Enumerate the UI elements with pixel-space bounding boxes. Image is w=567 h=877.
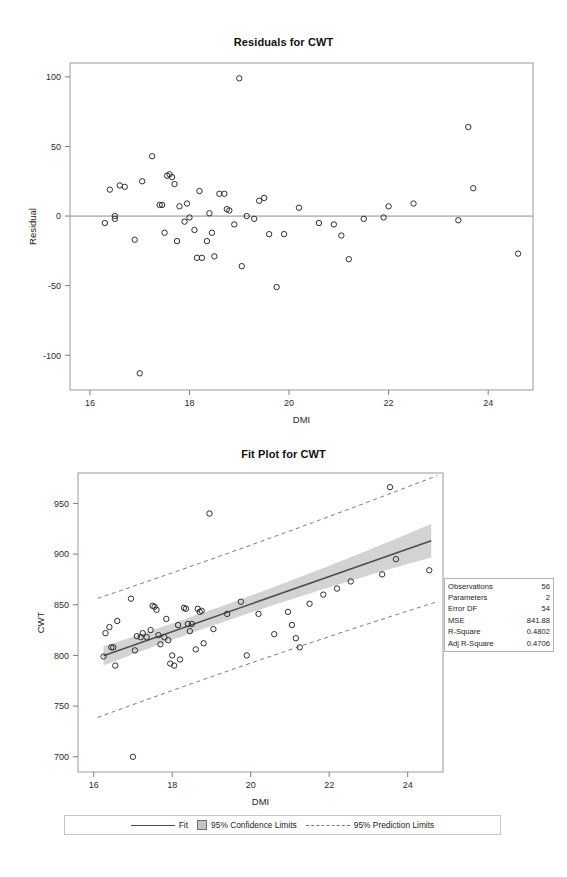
plot-frame bbox=[78, 473, 443, 772]
data-point-marker bbox=[204, 238, 209, 243]
data-point-marker bbox=[113, 663, 118, 668]
data-point-marker bbox=[207, 511, 212, 516]
y-tick-label: 950 bbox=[54, 499, 69, 509]
y-tick-label: 850 bbox=[54, 600, 69, 610]
statistic-label: Adj R-Square bbox=[445, 638, 514, 649]
data-point-marker bbox=[162, 230, 167, 235]
data-point-marker bbox=[386, 204, 391, 209]
y-tick-label: 800 bbox=[54, 651, 69, 661]
statistic-row: Adj R-Square0.4706 bbox=[445, 638, 553, 649]
data-point-marker bbox=[239, 263, 244, 268]
data-point-marker bbox=[177, 657, 182, 662]
data-point-marker bbox=[128, 596, 133, 601]
y-tick-label: 0 bbox=[56, 211, 61, 221]
data-point-marker bbox=[331, 222, 336, 227]
data-point-marker bbox=[209, 230, 214, 235]
data-point-marker bbox=[339, 233, 344, 238]
data-point-marker bbox=[387, 484, 392, 489]
prediction-limits-line-lower bbox=[98, 602, 438, 718]
residual-plot-canvas: 1618202224-100-50050100DMIResidual bbox=[0, 0, 567, 440]
data-point-marker bbox=[379, 572, 384, 577]
data-point-marker bbox=[149, 154, 154, 159]
x-tick-label: 20 bbox=[246, 780, 256, 790]
data-point-group bbox=[102, 76, 521, 376]
residual-plot-panel: Residuals for CWT 1618202224-100-5005010… bbox=[0, 0, 567, 440]
statistic-label: Observations bbox=[445, 581, 514, 592]
statistic-label: MSE bbox=[445, 615, 514, 626]
x-tick-label: 18 bbox=[167, 780, 177, 790]
data-point-marker bbox=[285, 609, 290, 614]
data-point-marker bbox=[107, 624, 112, 629]
data-point-marker bbox=[232, 222, 237, 227]
data-point-marker bbox=[427, 568, 432, 573]
x-tick-label: 16 bbox=[89, 780, 99, 790]
fit-statistics-table: Observations56Parameters2Error DF54MSE84… bbox=[445, 581, 553, 649]
prediction-limits-line-upper bbox=[98, 476, 438, 599]
data-point-marker bbox=[252, 216, 257, 221]
fit-plot-panel: Fit Plot for CWT 16182022247007508008509… bbox=[0, 440, 567, 877]
data-point-marker bbox=[293, 636, 298, 641]
legend-swatch-line-icon bbox=[131, 825, 175, 826]
legend-entry: 95% Confidence Limits bbox=[197, 820, 297, 830]
data-point-marker bbox=[137, 371, 142, 376]
legend-swatch-box-icon bbox=[197, 820, 207, 830]
data-point-marker bbox=[361, 216, 366, 221]
statistic-value: 56 bbox=[514, 581, 553, 592]
data-point-marker bbox=[256, 198, 261, 203]
legend-label: Fit bbox=[179, 820, 188, 830]
y-tick-label: -100 bbox=[43, 351, 61, 361]
data-point-marker bbox=[256, 611, 261, 616]
data-point-marker bbox=[346, 257, 351, 262]
y-tick-label: 50 bbox=[51, 142, 61, 152]
data-point-marker bbox=[107, 187, 112, 192]
fit-plot-title: Fit Plot for CWT bbox=[0, 448, 567, 460]
data-point-marker bbox=[515, 251, 520, 256]
statistic-value: 2 bbox=[514, 592, 553, 603]
statistic-row: Parameters2 bbox=[445, 592, 553, 603]
data-point-marker bbox=[334, 586, 339, 591]
data-point-marker bbox=[244, 653, 249, 658]
data-point-marker bbox=[177, 204, 182, 209]
data-point-marker bbox=[193, 647, 198, 652]
y-tick-label: 900 bbox=[54, 549, 69, 559]
data-point-marker bbox=[316, 220, 321, 225]
x-tick-label: 18 bbox=[184, 398, 194, 408]
x-tick-label: 16 bbox=[85, 398, 95, 408]
statistic-value: 54 bbox=[514, 604, 553, 615]
data-point-marker bbox=[261, 195, 266, 200]
data-point-marker bbox=[456, 218, 461, 223]
y-tick-label: 700 bbox=[54, 752, 69, 762]
data-point-marker bbox=[296, 205, 301, 210]
legend-label: 95% Prediction Limits bbox=[354, 820, 435, 830]
x-tick-label: 22 bbox=[324, 780, 334, 790]
statistic-label: Error DF bbox=[445, 604, 514, 615]
statistic-label: R-Square bbox=[445, 627, 514, 638]
data-point-marker bbox=[211, 626, 216, 631]
data-point-marker bbox=[139, 179, 144, 184]
statistic-row: MSE841.88 bbox=[445, 615, 553, 626]
legend-entry: 95% Prediction Limits bbox=[306, 820, 435, 830]
x-axis-title: DMI bbox=[252, 796, 269, 807]
x-tick-label: 20 bbox=[284, 398, 294, 408]
data-point-marker bbox=[184, 201, 189, 206]
data-point-marker bbox=[103, 630, 108, 635]
data-point-marker bbox=[281, 231, 286, 236]
data-point-marker bbox=[237, 76, 242, 81]
statistic-label: Parameters bbox=[445, 592, 514, 603]
data-point-marker bbox=[164, 616, 169, 621]
legend-label: 95% Confidence Limits bbox=[211, 820, 297, 830]
data-point-marker bbox=[307, 601, 312, 606]
data-point-marker bbox=[172, 181, 177, 186]
residual-plot-title: Residuals for CWT bbox=[0, 36, 567, 48]
data-point-marker bbox=[321, 592, 326, 597]
x-tick-label: 24 bbox=[483, 398, 493, 408]
data-point-marker bbox=[102, 220, 107, 225]
data-point-marker bbox=[266, 231, 271, 236]
data-point-group bbox=[101, 484, 432, 759]
plot-frame bbox=[70, 63, 533, 390]
data-point-marker bbox=[466, 124, 471, 129]
legend-entry: Fit bbox=[131, 820, 188, 830]
data-point-marker bbox=[132, 237, 137, 242]
confidence-limits-band bbox=[104, 524, 432, 665]
statistic-value: 0.4706 bbox=[514, 638, 553, 649]
